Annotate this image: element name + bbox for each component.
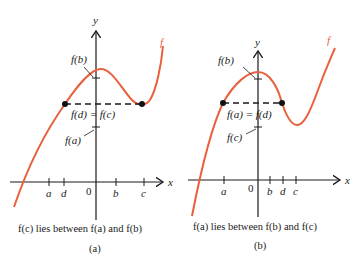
label-fa: f(a) (65, 134, 81, 147)
y-axis-label: y (254, 36, 260, 48)
panel-b: y x 0 a b d c f f(b) f(a) = f(d) f(c) f(… (188, 34, 350, 252)
panel-label-b: (b) (254, 240, 267, 252)
tick-label-d: d (61, 187, 67, 199)
label-fc: f(c) (227, 131, 243, 144)
x-axis-label: x (167, 176, 173, 188)
tick-label-b: b (113, 187, 119, 199)
panel-label-a: (a) (89, 243, 101, 255)
leader-fc (246, 129, 256, 134)
curve-label: f (160, 36, 165, 48)
curve-f (192, 48, 335, 216)
origin-label: 0 (86, 185, 92, 197)
curve-label: f (327, 34, 332, 46)
point-d (279, 100, 285, 106)
curve-f (14, 46, 163, 207)
tick-label-b: b (267, 185, 273, 197)
origin-label: 0 (248, 182, 254, 194)
point-d (62, 101, 68, 107)
caption-a: f(c) lies between f(a) and f(b) (18, 223, 142, 235)
label-fd-fc: f(d) = f(c) (71, 108, 115, 121)
tick-label-c: c (293, 185, 298, 197)
tick-label-c: c (141, 187, 146, 199)
label-fa-fd: f(a) = f(d) (227, 108, 272, 121)
point-a (220, 100, 226, 106)
panel-a: y x 0 a d b c f f(b) f(d) = f(c) f(a) f(… (10, 14, 173, 255)
figure: y x 0 a d b c f f(b) f(d) = f(c) f(a) f(… (0, 0, 356, 263)
label-fb: f(b) (71, 53, 87, 66)
x-axis-label: x (344, 174, 350, 186)
tick-label-a: a (46, 187, 52, 199)
leader-fa (84, 130, 94, 136)
y-axis-label: y (92, 14, 98, 26)
label-fb: f(b) (218, 54, 234, 67)
tick-label-d: d (280, 185, 286, 197)
caption-b: f(a) lies between f(b) and f(c) (193, 221, 317, 233)
point-c (139, 101, 145, 107)
tick-label-a: a (221, 185, 227, 197)
